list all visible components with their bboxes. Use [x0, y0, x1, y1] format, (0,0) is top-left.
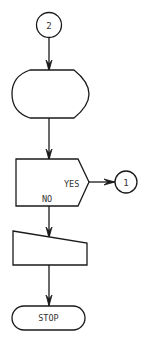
manual-input-shape	[13, 231, 87, 265]
connector-2-label: 2	[46, 21, 51, 31]
stop-terminator: STOP	[12, 306, 85, 330]
connector-1: 1	[115, 171, 137, 193]
stop-label: STOP	[38, 313, 58, 323]
display-shape	[12, 70, 89, 118]
edge-manual-input-to-stop	[46, 265, 52, 306]
edge-display-to-decision	[46, 118, 52, 160]
decision-no-label: NO	[42, 194, 52, 204]
edge-decision-no-to-manual-input	[46, 206, 52, 238]
edge-connector2-to-display	[46, 38, 52, 71]
edge-decision-yes-to-connector1	[89, 179, 115, 185]
connector-1-label: 1	[123, 178, 128, 188]
flowchart: 2 YES NO 1	[0, 0, 157, 351]
decision-yes-label: YES	[64, 179, 79, 189]
decision-shape: YES NO	[16, 159, 89, 206]
connector-2: 2	[37, 13, 62, 38]
